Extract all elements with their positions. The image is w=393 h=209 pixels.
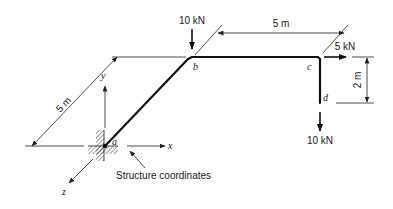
structure-coordinates-note: Structure coordinates [116,151,211,181]
dimension-label: 5 m [54,95,73,115]
dimension-label: 2 m [352,72,363,89]
node-label-b: b [193,61,198,72]
support-hatch-vertical [96,130,104,161]
extension-line [195,25,222,55]
load-d: 10 kN [307,112,333,146]
dimension-label: 5 m [273,18,290,29]
load-label-d: 10 kN [307,135,333,146]
node-label-a: a [112,136,117,147]
dimension-cd: 2 m [336,57,374,103]
pointer-arrow-icon [130,151,145,168]
z-axis-label: z [61,186,66,197]
annotation-text: Structure coordinates [116,170,211,181]
y-axis-label: y [100,70,106,81]
z-axis-arrow-icon [69,159,93,183]
x-axis-label: x [167,140,173,151]
load-c: 5 kN [324,41,355,57]
dimension-ab: 5 m [25,57,186,146]
dimension-bc: 5 m [195,18,348,55]
frame-members [103,57,320,148]
node-label-d: d [323,92,329,103]
node-label-c: c [307,61,312,72]
node-a [103,144,107,148]
frame-diagram: 5 m 5 m 2 m a b c d 10 kN 5 kN [0,0,393,209]
load-label-c: 5 kN [335,41,356,52]
member-abcd [105,57,320,146]
load-label-b: 10 kN [179,15,205,26]
support-hatch-horizontal [88,146,118,154]
load-b: 10 kN [179,15,205,49]
